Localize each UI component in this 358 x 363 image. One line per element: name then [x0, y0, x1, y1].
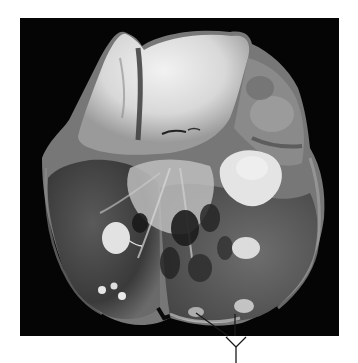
heart-specimen-image — [20, 18, 339, 336]
specimen-photo — [20, 18, 339, 336]
pointer-branch-left — [226, 337, 236, 347]
pointer-branch-right — [236, 337, 246, 347]
